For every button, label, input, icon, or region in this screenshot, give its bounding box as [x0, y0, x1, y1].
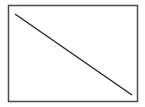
diagram-canvas — [0, 0, 145, 107]
diagonal-line — [15, 14, 132, 95]
